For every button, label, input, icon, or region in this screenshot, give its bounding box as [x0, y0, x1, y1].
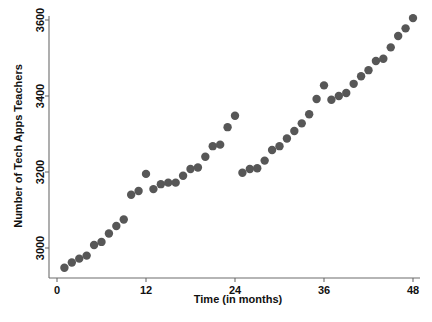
data-point	[387, 43, 395, 51]
data-point	[60, 264, 68, 272]
data-point	[401, 24, 409, 32]
x-tick-label: 48	[407, 284, 419, 296]
data-point	[379, 55, 387, 63]
data-point	[157, 180, 165, 188]
y-tick-label: 3200	[34, 160, 46, 184]
y-axis-title: Number of Tech Apps Teachers	[12, 64, 24, 228]
data-point	[82, 251, 90, 259]
data-point	[231, 112, 239, 120]
data-point	[223, 123, 231, 131]
data-point	[186, 165, 194, 173]
data-point	[216, 140, 224, 148]
data-point	[238, 169, 246, 177]
data-point	[194, 163, 202, 171]
data-point	[75, 254, 83, 262]
data-point	[320, 81, 328, 89]
x-axis-title: Time (in months)	[194, 293, 283, 305]
data-point	[335, 92, 343, 100]
data-point	[305, 110, 313, 118]
x-tick-label: 0	[54, 284, 60, 296]
data-point	[127, 191, 135, 199]
y-tick-label: 3000	[34, 236, 46, 260]
data-point	[134, 187, 142, 195]
data-point	[149, 185, 157, 193]
data-point	[298, 119, 306, 127]
data-point	[179, 172, 187, 180]
data-point	[312, 95, 320, 103]
data-point	[105, 229, 113, 237]
data-point	[275, 142, 283, 150]
data-point	[120, 215, 128, 223]
x-tick-label: 36	[318, 284, 330, 296]
y-tick-label: 3600	[34, 8, 46, 32]
data-point	[290, 127, 298, 135]
data-point	[357, 72, 365, 80]
data-point	[409, 14, 417, 22]
data-point	[68, 258, 76, 266]
data-point	[364, 66, 372, 74]
data-point	[260, 156, 268, 164]
data-point	[283, 134, 291, 142]
chart-background	[0, 0, 432, 322]
data-point	[349, 80, 357, 88]
y-tick-label: 3400	[34, 84, 46, 108]
data-point	[164, 178, 172, 186]
data-point	[209, 142, 217, 150]
data-point	[171, 178, 179, 186]
chart-canvas: 3000320034003600 012243648 Number of Tec…	[0, 0, 432, 322]
data-point	[90, 241, 98, 249]
x-tick-label: 12	[140, 284, 152, 296]
data-point	[394, 32, 402, 40]
scatter-chart: 3000320034003600 012243648 Number of Tec…	[0, 0, 432, 322]
data-point	[268, 146, 276, 154]
data-point	[327, 96, 335, 104]
data-point	[253, 164, 261, 172]
data-point	[246, 165, 254, 173]
data-point	[112, 222, 120, 230]
data-point	[142, 170, 150, 178]
data-point	[97, 238, 105, 246]
data-point	[342, 89, 350, 97]
data-point	[201, 153, 209, 161]
data-point	[372, 57, 380, 65]
